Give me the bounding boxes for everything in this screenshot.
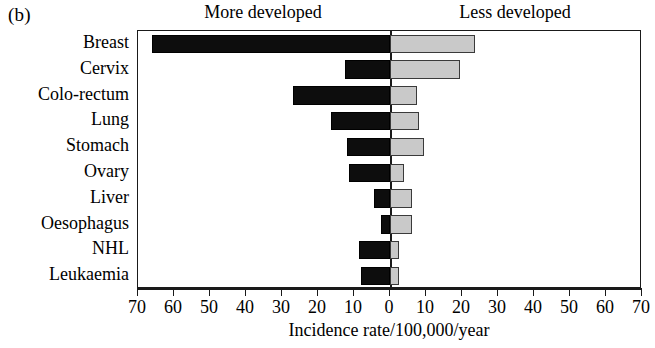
x-axis-tick — [137, 288, 138, 296]
x-axis-tick — [353, 288, 354, 296]
bar-stomach-less-developed — [390, 138, 424, 157]
bar-lung-more-developed — [331, 112, 390, 131]
x-axis-title: Incidence rate/100,000/year — [137, 320, 641, 341]
x-axis-tick-label: 20 — [441, 297, 481, 318]
x-axis-tick-label: 60 — [585, 297, 625, 318]
category-label: Stomach — [66, 133, 129, 159]
plot-area — [137, 30, 641, 288]
bar-ovary-more-developed — [349, 164, 390, 183]
x-axis-tick — [425, 288, 426, 296]
category-label: Ovary — [84, 159, 129, 185]
bar-row — [138, 83, 640, 109]
x-axis-tick — [641, 288, 642, 296]
category-label: Oesophagus — [41, 211, 129, 237]
bar-liver-less-developed — [390, 189, 412, 208]
x-axis-tick — [317, 288, 318, 296]
category-label: Lung — [91, 107, 129, 133]
x-axis-tick-label: 30 — [477, 297, 517, 318]
bar-row — [138, 108, 640, 134]
category-axis-labels: BreastCervixColo-rectumLungStomachOvaryL… — [0, 30, 133, 288]
x-axis-tick — [209, 288, 210, 296]
category-label: Leukaemia — [49, 262, 129, 288]
bar-row — [138, 237, 640, 263]
bar-oesophagus-less-developed — [390, 215, 412, 234]
bar-ovary-less-developed — [390, 164, 404, 183]
x-axis-tick-label: 40 — [225, 297, 265, 318]
bar-colo-rectum-less-developed — [390, 86, 417, 105]
bar-stomach-more-developed — [347, 138, 390, 157]
x-axis-tick — [281, 288, 282, 296]
bar-breast-more-developed — [152, 35, 390, 54]
bar-row — [138, 263, 640, 289]
x-axis-tick — [389, 288, 390, 296]
group-header-more-developed: More developed — [137, 2, 389, 23]
x-axis-tick-label: 40 — [513, 297, 553, 318]
bar-nhl-more-developed — [359, 241, 390, 260]
x-axis-tick — [245, 288, 246, 296]
x-axis-tick-label: 50 — [189, 297, 229, 318]
x-axis-tick — [533, 288, 534, 296]
x-axis-tick — [461, 288, 462, 296]
bar-cervix-more-developed — [345, 60, 390, 79]
x-axis-tick-label: 70 — [117, 297, 157, 318]
x-axis-tick-label: 50 — [549, 297, 589, 318]
panel-label: (b) — [8, 4, 31, 26]
bar-leukaemia-less-developed — [390, 267, 399, 286]
group-header-less-developed: Less developed — [389, 2, 641, 23]
category-label: Cervix — [80, 56, 129, 82]
x-axis-tick-label: 30 — [261, 297, 301, 318]
x-axis-tick — [605, 288, 606, 296]
x-axis: 70605040302010010203040506070 — [137, 288, 641, 290]
bar-oesophagus-more-developed — [381, 215, 390, 234]
bar-row — [138, 57, 640, 83]
x-axis-tick-label: 20 — [297, 297, 337, 318]
category-label: Breast — [83, 30, 129, 56]
bar-row — [138, 186, 640, 212]
bar-row — [138, 134, 640, 160]
bar-row — [138, 160, 640, 186]
bar-breast-less-developed — [390, 35, 475, 54]
bar-leukaemia-more-developed — [361, 267, 390, 286]
x-axis-tick-label: 60 — [153, 297, 193, 318]
x-axis-tick-label: 70 — [621, 297, 655, 318]
x-axis-tick-label: 10 — [405, 297, 445, 318]
bar-lung-less-developed — [390, 112, 419, 131]
bar-cervix-less-developed — [390, 60, 460, 79]
x-axis-tick — [569, 288, 570, 296]
bar-colo-rectum-more-developed — [293, 86, 390, 105]
bar-liver-more-developed — [374, 189, 390, 208]
category-label: Colo-rectum — [38, 82, 129, 108]
x-axis-tick-label: 10 — [333, 297, 373, 318]
x-axis-tick — [497, 288, 498, 296]
category-label: NHL — [92, 236, 129, 262]
category-label: Liver — [90, 185, 129, 211]
figure-panel-b: (b) More developed Less developed Breast… — [0, 0, 655, 348]
x-axis-tick-label: 0 — [369, 297, 409, 318]
bar-nhl-less-developed — [390, 241, 399, 260]
bar-row — [138, 31, 640, 57]
bar-row — [138, 212, 640, 238]
x-axis-tick — [173, 288, 174, 296]
